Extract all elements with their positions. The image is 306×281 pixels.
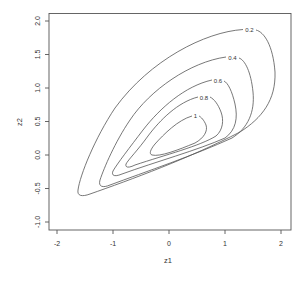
y-axis-title: z2	[15, 118, 24, 126]
y-axis: 2.0 1.5 1.0 0.5 0.0 -0.5 -1.0 z2	[15, 16, 49, 228]
x-tick-label: -2	[54, 240, 60, 247]
contour-1	[150, 116, 206, 155]
contour-labels: 0.2 0.4 0.6 0.8 1	[194, 27, 255, 120]
contour-plot: 2.0 1.5 1.0 0.5 0.0 -0.5 -1.0 z2 -2 -1 0…	[0, 0, 306, 281]
x-tick-label: 2	[279, 240, 283, 247]
contour-0.2	[78, 30, 275, 196]
y-tick-label: -1.0	[34, 216, 41, 228]
contour-lines	[78, 30, 275, 196]
y-tick-label: 1.5	[34, 50, 41, 60]
contour-label-1: 1	[194, 113, 198, 119]
plot-frame	[49, 14, 291, 231]
x-axis: -2 -1 0 1 2 z1	[54, 230, 283, 265]
contour-label-0.2: 0.2	[245, 27, 254, 33]
y-tick-label: 2.0	[34, 16, 41, 26]
contour-label-0.8: 0.8	[200, 95, 209, 101]
contour-label-0.4: 0.4	[228, 55, 237, 61]
contour-0.4	[100, 57, 254, 187]
x-tick-label: 1	[223, 240, 227, 247]
y-tick-label: -0.5	[34, 182, 41, 194]
y-tick-label: 0.0	[34, 150, 41, 160]
x-tick-label: -1	[110, 240, 116, 247]
x-tick-label: 0	[167, 240, 171, 247]
y-tick-label: 0.5	[34, 117, 41, 127]
y-tick-label: 1.0	[34, 83, 41, 93]
x-axis-title: z1	[164, 256, 172, 265]
contour-label-0.6: 0.6	[214, 78, 223, 84]
